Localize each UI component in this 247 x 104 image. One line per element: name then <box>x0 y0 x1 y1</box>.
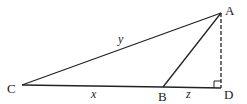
vertex-label-A: A <box>225 3 235 18</box>
side-label-z: z <box>185 87 191 101</box>
segment-CA <box>22 13 221 85</box>
side-label-y: y <box>117 32 124 46</box>
side-label-x: x <box>90 87 97 101</box>
triangle-diagram: A B C D y x z <box>0 0 247 104</box>
right-angle-marker <box>214 81 221 88</box>
vertex-label-B: B <box>158 89 167 104</box>
segment-BD <box>163 87 221 88</box>
vertex-label-C: C <box>7 81 16 96</box>
vertex-label-D: D <box>224 87 233 102</box>
